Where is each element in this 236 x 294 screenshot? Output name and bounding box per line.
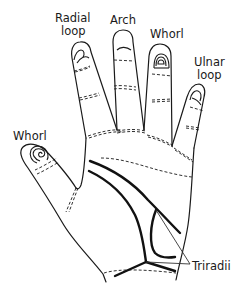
whorl-ring-pattern — [154, 54, 169, 68]
palm-left-edge — [76, 138, 86, 189]
lower-triradius — [115, 262, 175, 276]
radial-loop-pattern — [74, 50, 89, 63]
index-finger — [72, 42, 117, 138]
label-whorl-thumb: Whorl — [13, 129, 47, 143]
little-finger — [172, 84, 205, 148]
middle-finger — [113, 30, 144, 130]
hand-diagram: Radial loop Arch Whorl Ulnar loop Whorl … — [0, 0, 236, 294]
label-triradii: Triradii — [191, 259, 231, 273]
arch-pattern — [117, 47, 131, 50]
label-radial-loop-line1: Radial — [55, 11, 91, 25]
label-whorl-ring: Whorl — [150, 27, 184, 41]
ulnar-loop-pattern — [190, 91, 201, 105]
labels: Radial loop Arch Whorl Ulnar loop Whorl … — [13, 11, 231, 273]
palm-lines — [89, 161, 180, 276]
label-ulnar-loop-line1: Ulnar — [194, 55, 225, 69]
label-arch: Arch — [110, 13, 136, 27]
thumb — [21, 144, 106, 282]
label-radial-loop-line2: loop — [61, 24, 86, 38]
life-line — [89, 171, 146, 262]
whorl-thumb-pattern — [33, 149, 45, 161]
label-ulnar-loop-line2: loop — [197, 68, 222, 82]
